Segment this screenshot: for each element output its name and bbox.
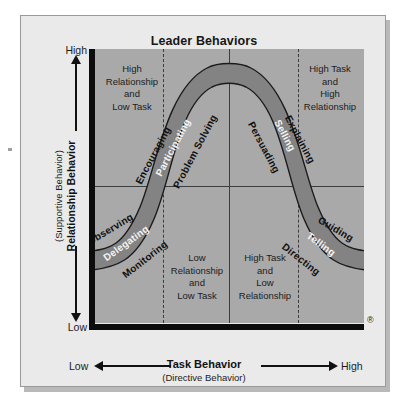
bell-curve-band: Encouraging Participating Problem Solvin…: [94, 49, 364, 323]
y-axis-bar: [89, 49, 95, 330]
situational-leadership-diagram: Leader Behaviors High (Supportive Behavi…: [0, 0, 408, 411]
registered-trademark-icon: ®: [367, 316, 374, 325]
x-axis-bar: [89, 324, 364, 330]
plot-wrapper: High Relationship and Low Task High Task…: [89, 49, 364, 338]
y-axis-down-arrow-icon: [75, 246, 77, 314]
y-axis-low-label: Low: [33, 321, 87, 333]
diagram-card: Leader Behaviors High (Supportive Behavi…: [20, 15, 386, 387]
y-axis-title-group: (Supportive Behavior) Relationship Behav…: [53, 111, 83, 281]
x-axis-right-arrow-icon: [261, 365, 329, 367]
x-axis-subtitle: (Directive Behavior): [21, 372, 387, 383]
image-speck: [8, 148, 12, 151]
x-axis-high-label: High: [341, 360, 363, 372]
y-axis-subtitle: (Supportive Behavior): [53, 111, 65, 281]
